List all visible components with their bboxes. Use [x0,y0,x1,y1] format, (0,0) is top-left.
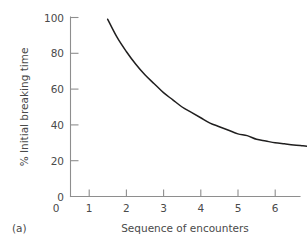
x-tick-label-0: 0 [53,202,60,214]
y-tick-label-0: 0 [57,191,64,203]
y-tick-label-100: 100 [44,12,64,24]
y-axis-title: % Initial breaking time [18,48,30,167]
chart-canvas: 100 80 60 40 20 0 0 1 2 3 4 5 6 Sequence… [0,0,307,247]
figure-panel: 100 80 60 40 20 0 0 1 2 3 4 5 6 Sequence… [0,0,307,247]
data-curve [108,19,307,146]
x-axis-tick-labels: 0 1 2 3 4 5 6 [53,202,279,214]
y-tick-label-40: 40 [51,119,64,131]
x-tick-label-4: 4 [197,202,204,214]
y-axis-tick-labels: 100 80 60 40 20 0 [44,12,64,203]
x-axis-ticks [89,190,275,197]
x-tick-label-5: 5 [235,202,242,214]
x-tick-label-6: 6 [272,202,279,214]
y-tick-label-60: 60 [51,83,64,95]
x-tick-label-1: 1 [86,202,93,214]
x-tick-label-3: 3 [160,202,167,214]
y-tick-label-80: 80 [51,47,64,59]
y-tick-label-20: 20 [51,155,64,167]
x-axis-title: Sequence of encounters [121,222,249,234]
x-tick-label-2: 2 [123,202,130,214]
y-axis-ticks [71,18,79,161]
panel-label: (a) [12,222,27,234]
